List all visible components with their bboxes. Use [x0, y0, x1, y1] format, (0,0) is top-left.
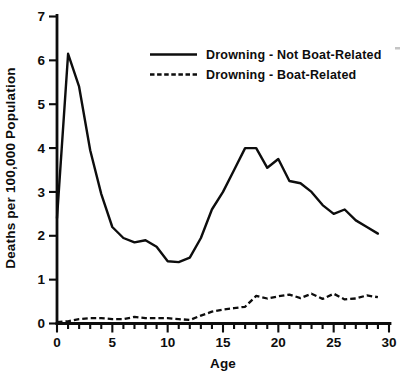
x-tick-label-15: 15: [215, 335, 231, 350]
x-axis-title: Age: [210, 356, 236, 371]
x-tick-label-25: 25: [326, 335, 342, 350]
scan-artifact: [395, 47, 400, 50]
y-tick-label-2: 2: [37, 228, 45, 243]
line-chart: 01234567051015202530 Drowning - Not Boat…: [0, 0, 410, 387]
x-tick-label-10: 10: [160, 335, 175, 350]
drowning-rate-figure: 01234567051015202530 Drowning - Not Boat…: [0, 0, 410, 387]
y-tick-label-7: 7: [37, 9, 45, 24]
y-tick-label-3: 3: [37, 185, 45, 200]
y-tick-label-1: 1: [37, 272, 45, 287]
y-tick-label-0: 0: [37, 316, 45, 331]
legend-label-not-boat-related: Drowning - Not Boat-Related: [206, 48, 382, 62]
y-tick-label-5: 5: [37, 97, 45, 112]
solid-series-line: [57, 54, 378, 262]
y-tick-label-4: 4: [37, 141, 45, 156]
y-axis-title: Deaths per 100,000 Population: [3, 67, 18, 269]
legend: Drowning - Not Boat-Related Drowning - B…: [150, 48, 382, 82]
y-tick-label-6: 6: [37, 53, 45, 68]
x-tick-label-5: 5: [109, 335, 117, 350]
legend-label-boat-related: Drowning - Boat-Related: [206, 68, 356, 82]
x-tick-label-0: 0: [53, 335, 61, 350]
x-tick-label-30: 30: [381, 335, 396, 350]
dashed-series-line: [57, 294, 378, 323]
x-tick-label-20: 20: [271, 335, 286, 350]
